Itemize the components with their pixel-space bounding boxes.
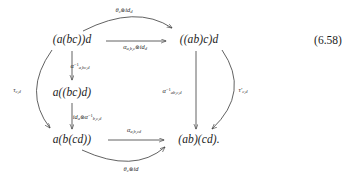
arrow-label-theta-c-id-d-top: θc⊗idd: [116, 7, 133, 14]
node-bottom-right: (ab)(cd).: [178, 134, 219, 146]
arrow-theta-c-id-bottom: [82, 147, 165, 161]
node-top-right: ((ab)c)d: [180, 34, 218, 46]
node-bottom-left: a(b(cd)): [53, 134, 91, 146]
arrow-label-alpha-a-b-cd: αa,b,cd: [127, 127, 141, 134]
arrow-label-theta-c-id-bottom: θc⊗id: [124, 166, 139, 173]
arrow-label-alpha-inv-ab-c-d: α−1ab,c,d: [163, 88, 182, 96]
arrow-label-alpha-abc-id-d: αa,b,c⊗idd: [123, 44, 147, 51]
node-mid-left: a((bc)d): [53, 87, 91, 99]
arrow-label-alpha-inv-a-bc-d: α−1a,bc,d: [71, 63, 90, 71]
arrow-label-id-a-alpha-inv-bcd: ida⊗α−1b,c,d: [73, 114, 102, 122]
arrow-theta-c-id-d-top: [83, 17, 172, 31]
arrow-label-tau-prime-c-d: τ′c,d: [239, 87, 248, 94]
commutative-diagram: (a(bc))d ((ab)c)d a((bc)d) a(b(cd)) (ab)…: [0, 0, 361, 182]
equation-number: (6.58): [314, 35, 342, 47]
arrow-label-tau-c-d: τc,d: [13, 87, 20, 94]
node-top-left: (a(bc))d: [53, 34, 91, 46]
arrow-tau-c-d: [36, 50, 52, 128]
arrow-tau-prime-c-d: [212, 50, 234, 129]
